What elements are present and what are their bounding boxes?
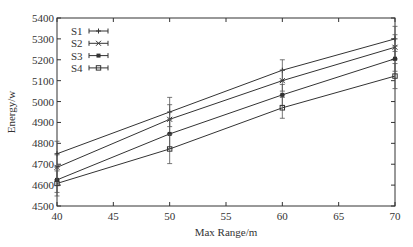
y-tick-label: 5200	[32, 54, 55, 66]
y-axis: 4500460047004800490050005100520053005400	[32, 12, 395, 212]
series-s1	[55, 26, 398, 166]
line-chart: 4500460047004800490050005100520053005400…	[0, 0, 413, 247]
y-tick-label: 5000	[32, 96, 55, 108]
x-tick-label: 60	[277, 210, 289, 222]
svg-text:S3: S3	[71, 50, 83, 62]
data-series	[55, 26, 398, 196]
svg-text:S4: S4	[71, 62, 83, 74]
x-tick-label: 45	[108, 210, 120, 222]
y-axis-label: Energy/w	[5, 91, 17, 134]
series-s4	[55, 64, 398, 196]
y-tick-label: 5100	[32, 75, 55, 87]
y-tick-label: 4800	[32, 137, 55, 149]
x-tick-label: 70	[390, 210, 402, 222]
series-s2	[55, 35, 398, 180]
legend-item-s1: S1	[71, 25, 108, 37]
svg-text:S2: S2	[71, 37, 83, 49]
x-tick-label: 50	[164, 210, 176, 222]
legend-item-s3: S3	[71, 50, 108, 62]
legend-item-s2: S2	[71, 37, 108, 49]
legend-item-s4: S4	[71, 62, 108, 74]
svg-text:S1: S1	[71, 25, 83, 37]
x-axis: 40455055606570	[52, 18, 402, 222]
x-tick-label: 65	[333, 210, 345, 222]
y-tick-label: 4700	[32, 158, 55, 170]
legend: S1S2S3S4	[71, 25, 108, 74]
y-tick-label: 5300	[32, 33, 55, 45]
x-tick-label: 55	[221, 210, 233, 222]
x-axis-label: Max Range/m	[195, 226, 258, 238]
x-tick-label: 40	[52, 210, 64, 222]
plot-area	[57, 18, 395, 206]
y-tick-label: 4900	[32, 116, 55, 128]
y-tick-label: 5400	[32, 12, 55, 24]
y-tick-label: 4600	[32, 179, 55, 191]
